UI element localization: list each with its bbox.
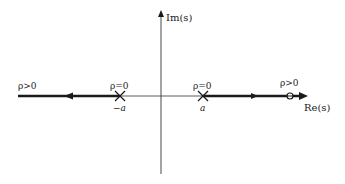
root-locus-diagram: Im(s) Re(s) ρ>0 ρ=0 −a ρ=0 a ρ>0 [0, 0, 345, 184]
real-axis-arrow-icon [299, 92, 308, 100]
pole-neg-a-label: −a [113, 103, 126, 113]
imag-axis-label: Im(s) [166, 12, 192, 23]
right-branch-mid-arrow-icon [251, 93, 258, 99]
imag-axis-arrow-icon [158, 10, 164, 17]
real-axis-label: Re(s) [304, 102, 330, 113]
pole-neg-a-gain-label: ρ=0 [110, 81, 129, 91]
pole-pos-a-label: a [200, 103, 205, 113]
zero-gain-label: ρ>0 [280, 78, 299, 88]
left-branch-gain-label: ρ>0 [18, 81, 37, 91]
pole-pos-a-gain-label: ρ=0 [193, 81, 212, 91]
left-branch-arrow-icon [64, 93, 73, 100]
